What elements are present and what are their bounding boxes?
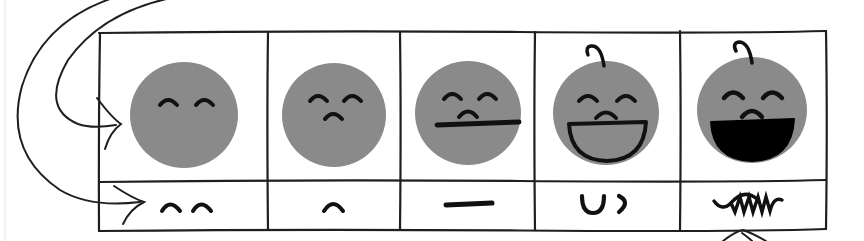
table-bottom-border	[99, 229, 826, 231]
mouth-straight-line-icon	[437, 122, 519, 125]
symbol-line	[446, 203, 492, 205]
cell-symbol-2	[324, 204, 343, 211]
cell-symbol-4	[582, 196, 625, 213]
hand-drawn-diagram	[0, 0, 864, 241]
table-right-border	[826, 31, 827, 229]
symbol-arc	[324, 204, 343, 211]
cell-symbol-1	[162, 205, 211, 212]
column-divider-2	[400, 32, 401, 230]
table-row-divider	[99, 180, 826, 182]
column-divider-4	[680, 31, 681, 230]
cell-face-5	[697, 42, 807, 163]
cell-symbol-5	[714, 194, 782, 212]
arrow-head	[114, 186, 144, 224]
arrow-head	[97, 98, 121, 149]
cell-face-4	[553, 46, 659, 165]
symbol-scribble-tail	[731, 194, 757, 203]
cell-symbol-3	[446, 203, 492, 205]
table-left-border	[99, 33, 100, 231]
column-divider-1	[267, 32, 268, 230]
symbol-arc-right	[193, 205, 211, 212]
cell-face-3	[415, 61, 521, 165]
symbol-u-icon	[582, 196, 604, 213]
cell-face-2	[282, 63, 386, 167]
symbol-paren-icon	[619, 196, 625, 212]
cell-face-1	[130, 62, 238, 168]
arrow-shaft	[742, 233, 752, 241]
column-divider-3	[534, 32, 535, 230]
face-circle	[130, 62, 238, 168]
symbol-scribble-icon	[714, 197, 782, 212]
symbol-arc-left	[162, 205, 180, 212]
table-top-border	[99, 31, 826, 33]
figure-canvas	[0, 0, 864, 241]
arrow-shaft	[18, 0, 140, 204]
